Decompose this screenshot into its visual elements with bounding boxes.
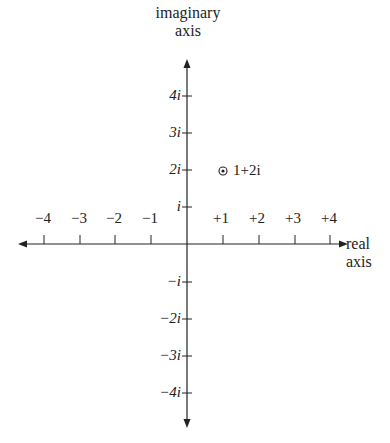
real-tick-label: +1 xyxy=(213,211,229,226)
real-tick-label: −1 xyxy=(142,211,158,226)
real-axis-title: real axis xyxy=(346,235,386,271)
imag-tick-label: 3i xyxy=(169,125,181,140)
point-marker-icon xyxy=(219,167,227,175)
real-tick-label: +2 xyxy=(249,211,265,226)
imag-tick-label: −3i xyxy=(159,348,181,363)
real-tick-label: +3 xyxy=(285,211,301,226)
imag-tick-label: 2i xyxy=(169,162,181,177)
imaginary-axis-down-arrow-icon xyxy=(184,419,191,428)
real-axis-title-line1: real xyxy=(346,235,386,253)
imag-tick-label: i xyxy=(177,199,181,214)
real-axis-title-line2: axis xyxy=(346,253,386,271)
imag-tick-label: 4i xyxy=(169,88,181,103)
imaginary-axis-up-arrow-icon xyxy=(184,59,191,68)
imaginary-axis-title-line1: imaginary xyxy=(148,4,228,22)
real-tick-label: −4 xyxy=(35,211,51,226)
imaginary-axis-title-line2: axis xyxy=(148,22,228,40)
imag-tick-label: −i xyxy=(167,274,181,289)
real-tick-label: −3 xyxy=(71,211,87,226)
real-axis-left-arrow-icon xyxy=(18,241,27,248)
imag-tick-label: −2i xyxy=(159,311,181,326)
real-tick-label: −2 xyxy=(106,211,122,226)
imag-tick-label: −4i xyxy=(159,385,181,400)
point-label: 1+2i xyxy=(233,163,261,178)
real-tick-label: +4 xyxy=(321,211,337,226)
imaginary-axis-title: imaginary axis xyxy=(148,4,228,40)
